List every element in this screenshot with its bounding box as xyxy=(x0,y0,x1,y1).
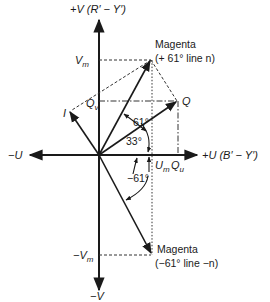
q-axis-label: Q xyxy=(182,95,191,107)
v-negative-label: −V xyxy=(90,290,105,302)
magenta-positive-vector xyxy=(99,61,150,155)
u-positive-label: +U (B′ − Y′) xyxy=(202,149,258,161)
qu-label: Qu xyxy=(171,159,185,174)
i-axis-vector xyxy=(70,112,99,155)
qv-label: Qv xyxy=(86,97,100,112)
v-positive-label: +V (R′ − Y′) xyxy=(70,3,126,15)
angle-61-label: 61° xyxy=(133,116,149,128)
magenta-negative-name: Magenta xyxy=(157,243,198,255)
magenta-negative-vector xyxy=(99,155,151,253)
q-axis-vector xyxy=(99,102,176,155)
vm-label: Vm xyxy=(75,54,89,69)
i-axis-label: I xyxy=(63,107,66,119)
um-label: Um xyxy=(155,159,170,174)
u-negative-label: −U xyxy=(8,149,22,161)
magenta-positive-name: Magenta xyxy=(155,38,196,50)
angle-33-label: 33° xyxy=(126,135,142,147)
magenta-to-q-projection xyxy=(151,60,177,101)
magenta-negative-line: (−61° line −n) xyxy=(155,257,218,269)
magenta-positive-line: (+ 61° line n) xyxy=(155,52,215,64)
neg-vm-label: −Vm xyxy=(73,249,94,264)
phasor-diagram: +V (R′ − Y′) −V +U (B′ − Y′) −U Magenta … xyxy=(0,0,270,302)
angle-neg61-label: −61° xyxy=(127,172,149,184)
